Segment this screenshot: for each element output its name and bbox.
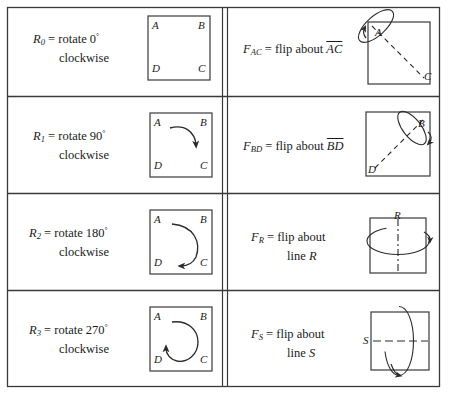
symbol-FAC: F bbox=[243, 42, 251, 56]
vertex-FAC-C: C bbox=[424, 70, 431, 82]
axis-label-FR: R bbox=[309, 249, 317, 263]
symbol-R3: R bbox=[29, 323, 37, 337]
vertex-R0-B: B bbox=[198, 19, 205, 31]
desc-R2-line2: clockwise bbox=[29, 243, 109, 261]
desc-FS-line2: line bbox=[287, 346, 306, 360]
equals-R1: = bbox=[48, 129, 55, 143]
symbol-FBD: F bbox=[243, 139, 251, 153]
equals-R0: = bbox=[48, 32, 55, 46]
desc-FBD: flip about bbox=[275, 139, 323, 153]
vertex-R2-A: A bbox=[154, 213, 161, 225]
vertex-R1-D: D bbox=[154, 159, 162, 171]
vertex-R1-B: B bbox=[200, 116, 207, 128]
vertex-R3-B: B bbox=[200, 310, 207, 322]
subscript-R3: 3 bbox=[37, 328, 41, 338]
degree-R0: ° bbox=[96, 32, 99, 41]
diagram-FS bbox=[371, 307, 429, 376]
equals-FS: = bbox=[266, 327, 273, 341]
symmetries-of-square-table: R0 = rotate 0° clockwise A B C D FAC = f… bbox=[0, 0, 449, 396]
desc-FS: flip about bbox=[276, 327, 324, 341]
label-FR: FR = flip about line R bbox=[251, 228, 325, 265]
axis-label-FS: S bbox=[309, 346, 315, 360]
symbol-R1: R bbox=[33, 129, 41, 143]
subscript-FS: S bbox=[259, 332, 263, 342]
vertex-R2-B: B bbox=[200, 213, 207, 225]
revolution-arrow-FR bbox=[424, 232, 430, 241]
label-R3: R3 = rotate 270° clockwise bbox=[29, 321, 109, 358]
axis-marker-S: S bbox=[363, 334, 369, 346]
label-R0: R0 = rotate 0° clockwise bbox=[33, 30, 109, 67]
label-R2: R2 = rotate 180° clockwise bbox=[29, 224, 109, 261]
desc-FR: flip about bbox=[277, 230, 325, 244]
equals-FBD: = bbox=[265, 139, 272, 153]
desc-R0-line2: clockwise bbox=[33, 49, 109, 67]
arrow-rotate-180 bbox=[172, 224, 198, 266]
label-R1: R1 = rotate 90° clockwise bbox=[33, 127, 109, 164]
subscript-R2: 2 bbox=[37, 231, 41, 241]
desc-R3-line2: clockwise bbox=[29, 340, 109, 358]
desc-R3-line1: rotate 270 bbox=[54, 323, 104, 337]
desc-R1-line1: rotate 90 bbox=[58, 129, 102, 143]
equals-FR: = bbox=[267, 230, 274, 244]
revolution-arrow-FAC bbox=[364, 28, 366, 38]
label-FAC: FAC = flip about AC bbox=[243, 40, 342, 59]
degree-R1: ° bbox=[102, 129, 105, 138]
vertex-R0-A: A bbox=[152, 19, 159, 31]
vertex-R2-D: D bbox=[154, 256, 162, 268]
subscript-R1: 1 bbox=[41, 134, 45, 144]
column-divider-double bbox=[223, 8, 228, 387]
diagram-FAC bbox=[353, 4, 430, 84]
axis-label-FBD: BD bbox=[327, 139, 344, 153]
subscript-FBD: BD bbox=[251, 144, 262, 154]
axis-marker-R: R bbox=[394, 209, 401, 221]
symbol-FS: F bbox=[251, 327, 259, 341]
desc-R2-line1: rotate 180 bbox=[54, 226, 104, 240]
vertex-FAC-A: A bbox=[375, 26, 382, 38]
desc-R0-line1: rotate 0 bbox=[58, 32, 96, 46]
degree-R2: ° bbox=[105, 226, 108, 235]
vertex-R3-D: D bbox=[154, 353, 162, 365]
vertex-R2-C: C bbox=[200, 256, 207, 268]
vertex-R3-C: C bbox=[200, 353, 207, 365]
label-FS: FS = flip about line S bbox=[251, 325, 325, 362]
desc-R1-line2: clockwise bbox=[33, 146, 109, 164]
axis-label-FAC: AC bbox=[326, 42, 342, 56]
vertex-FBD-B: B bbox=[418, 117, 425, 129]
symbol-R2: R bbox=[29, 226, 37, 240]
row-dividers bbox=[8, 97, 440, 291]
revolution-ellipse-FBD bbox=[393, 107, 432, 150]
desc-FAC: flip about bbox=[275, 42, 323, 56]
symbol-R0: R bbox=[33, 32, 41, 46]
arrow-rotate-270 bbox=[166, 322, 198, 362]
vertex-R0-D: D bbox=[152, 62, 160, 74]
vertex-R1-A: A bbox=[154, 116, 161, 128]
vertex-FBD-D: D bbox=[368, 163, 376, 175]
diagram-FR bbox=[367, 218, 430, 273]
degree-R3: ° bbox=[105, 323, 108, 332]
equals-R2: = bbox=[44, 226, 51, 240]
desc-FR-line2: line bbox=[287, 249, 306, 263]
equals-FAC: = bbox=[265, 42, 272, 56]
vertex-R0-C: C bbox=[198, 62, 205, 74]
label-FBD: FBD = flip about BD bbox=[243, 137, 343, 156]
symbol-FR: F bbox=[251, 230, 259, 244]
equals-R3: = bbox=[44, 323, 51, 337]
subscript-FR: R bbox=[259, 235, 264, 245]
arrow-rotate-90 bbox=[170, 127, 196, 145]
subscript-FAC: AC bbox=[251, 47, 262, 57]
subscript-R0: 0 bbox=[41, 37, 45, 47]
vertex-R1-C: C bbox=[200, 159, 207, 171]
vertex-R3-A: A bbox=[154, 310, 161, 322]
